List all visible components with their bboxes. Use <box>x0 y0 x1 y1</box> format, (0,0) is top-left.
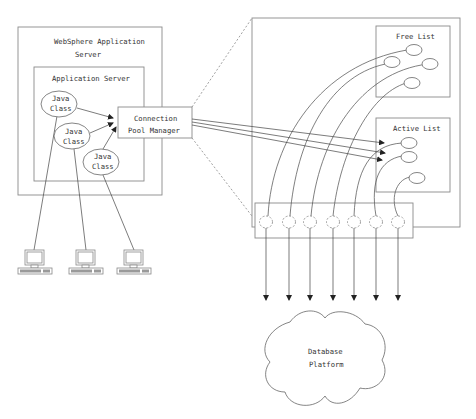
application-server-label: Application Server <box>52 74 131 83</box>
desktop-computer-icon <box>18 250 52 274</box>
connection-pool-manager: Connection Pool Manager <box>118 107 192 138</box>
active-connection <box>409 173 425 184</box>
free-connection <box>406 45 422 56</box>
active-connection <box>401 152 417 163</box>
connection-slot <box>392 216 405 228</box>
active-list-label: Active List <box>393 124 441 133</box>
database-label-line2: Platform <box>309 360 344 369</box>
zoom-projection-lines <box>192 18 255 220</box>
java-class-1-label-line2: Class <box>50 104 72 113</box>
free-connection <box>422 59 438 70</box>
desktop-computer-icon <box>69 250 103 274</box>
java-class-2: Java Class <box>54 123 90 149</box>
connection-slot <box>370 216 383 228</box>
client-computer-2 <box>69 250 103 274</box>
pool-manager-label-line1: Connection <box>134 114 177 123</box>
free-connection <box>384 57 400 68</box>
connection-slot <box>260 216 273 228</box>
database-platform-cloud: Database Platform <box>265 311 385 405</box>
client-computer-3 <box>117 250 151 274</box>
java-class-1-label-line1: Java <box>52 94 69 103</box>
pool-manager-label-line2: Pool Manager <box>128 126 181 135</box>
active-connection <box>401 138 417 149</box>
connection-slot <box>283 216 296 228</box>
database-arrows <box>266 228 398 300</box>
connection-slot <box>348 216 361 228</box>
java-class-3-label-line1: Java <box>94 152 111 161</box>
free-connection <box>404 78 420 89</box>
free-list-label: Free List <box>396 32 435 41</box>
java-class-2-label-line1: Java <box>65 127 82 136</box>
connection-pool-diagram: WebSphere Application Server Application… <box>0 0 476 419</box>
java-class-3-label-line2: Class <box>92 162 114 171</box>
java-class-3: Java Class <box>83 149 119 175</box>
java-class-1: Java Class <box>41 91 77 117</box>
connection-slot <box>327 216 340 228</box>
desktop-computer-icon <box>117 250 151 274</box>
java-class-2-label-line2: Class <box>63 137 85 146</box>
database-label-line1: Database <box>308 347 343 356</box>
connection-slot <box>304 216 317 228</box>
websphere-label-line1: WebSphere Application <box>54 37 145 46</box>
client-computer-1 <box>18 250 52 274</box>
websphere-label-line2: Server <box>75 50 102 59</box>
